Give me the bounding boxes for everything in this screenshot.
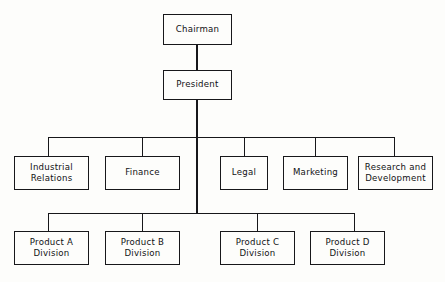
connector-drop-legal [244,137,245,157]
node-product-d-division[interactable]: Product D Division [310,231,385,265]
org-chart-canvas: Chairman President Industrial Relations … [0,0,445,282]
connector-drop-research-and-development [394,137,395,157]
connector-bus-departments [48,137,395,138]
node-product-b-division[interactable]: Product B Division [105,231,180,265]
node-research-and-development[interactable]: Research and Development [358,156,433,190]
connector-chairman-to-president [196,45,197,70]
node-product-c-division[interactable]: Product C Division [220,231,295,265]
connector-drop-product-d-division [354,213,355,232]
node-chairman[interactable]: Chairman [163,14,232,45]
node-industrial-relations[interactable]: Industrial Relations [14,156,89,190]
node-marketing[interactable]: Marketing [283,156,348,190]
node-finance[interactable]: Finance [105,156,180,190]
connector-president-spine [196,100,197,214]
connector-bus-divisions [48,213,355,214]
connector-drop-industrial-relations [48,137,49,157]
connector-drop-marketing [315,137,316,157]
node-president[interactable]: President [163,70,232,100]
connector-drop-product-b-division [142,213,143,232]
connector-drop-finance [142,137,143,157]
node-product-a-division[interactable]: Product A Division [14,231,89,265]
connector-drop-product-c-division [257,213,258,232]
node-legal[interactable]: Legal [220,156,268,190]
connector-drop-product-a-division [48,213,49,232]
